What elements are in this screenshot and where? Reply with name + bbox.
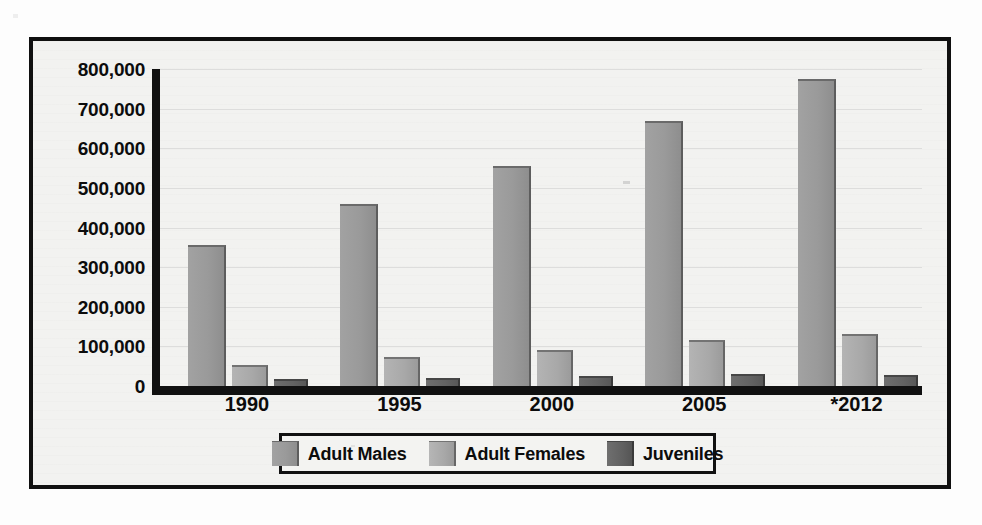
legend-label: Juveniles — [643, 445, 723, 463]
bar-males[interactable] — [493, 166, 531, 386]
bar-females[interactable] — [232, 365, 268, 386]
bar-females[interactable] — [384, 357, 420, 386]
y-axis-tick-labels: 800,000700,000600,000500,000400,000300,0… — [31, 69, 145, 386]
y-tick-label: 700,000 — [35, 100, 145, 119]
chart-frame: 800,000700,000600,000500,000400,000300,0… — [29, 37, 951, 489]
bar-group — [188, 69, 306, 386]
bar-group — [798, 69, 916, 386]
y-tick-label: 200,000 — [35, 298, 145, 317]
y-tick-label: 500,000 — [35, 179, 145, 198]
y-tick-label: 300,000 — [35, 258, 145, 277]
y-tick-label: 600,000 — [35, 139, 145, 158]
scanned-page: 800,000700,000600,000500,000400,000300,0… — [0, 0, 982, 525]
y-tick-label: 800,000 — [35, 60, 145, 79]
y-tick-label: 0 — [35, 377, 145, 396]
legend-item-males[interactable]: Adult Males — [272, 441, 407, 466]
x-tick-label: 2005 — [625, 394, 783, 414]
plot-area — [152, 69, 922, 386]
legend-label: Adult Females — [465, 445, 585, 463]
x-tick-label: 1990 — [168, 394, 326, 414]
legend-swatch-icon — [607, 441, 634, 466]
y-tick-label: 100,000 — [35, 337, 145, 356]
x-tick-label: *2012 — [778, 394, 936, 414]
x-axis-tick-labels: 1990199520002005*2012 — [152, 394, 922, 428]
bar-males[interactable] — [188, 245, 226, 386]
bar-males[interactable] — [798, 79, 836, 386]
bar-juveniles[interactable] — [426, 378, 460, 386]
bar-juveniles[interactable] — [274, 379, 308, 386]
scan-speck — [13, 14, 18, 18]
bar-females[interactable] — [842, 334, 878, 386]
x-tick-label: 2000 — [473, 394, 631, 414]
x-tick-label: 1995 — [320, 394, 478, 414]
bar-juveniles[interactable] — [884, 375, 918, 387]
bar-series-area — [160, 69, 922, 386]
bar-males[interactable] — [645, 121, 683, 387]
legend-swatch-icon — [272, 441, 299, 466]
y-axis-line — [152, 69, 160, 386]
bar-juveniles[interactable] — [731, 374, 765, 386]
chart-legend: Adult MalesAdult FemalesJuveniles — [279, 433, 716, 474]
bar-females[interactable] — [537, 350, 573, 386]
legend-swatch-icon — [429, 441, 456, 466]
bar-females[interactable] — [689, 340, 725, 386]
legend-item-females[interactable]: Adult Females — [429, 441, 585, 466]
bar-juveniles[interactable] — [579, 376, 613, 386]
legend-label: Adult Males — [308, 445, 407, 463]
bar-group — [493, 69, 611, 386]
legend-item-juveniles[interactable]: Juveniles — [607, 441, 723, 466]
bar-group — [340, 69, 458, 386]
bar-males[interactable] — [340, 204, 378, 386]
bar-group — [645, 69, 763, 386]
y-tick-label: 400,000 — [35, 219, 145, 238]
